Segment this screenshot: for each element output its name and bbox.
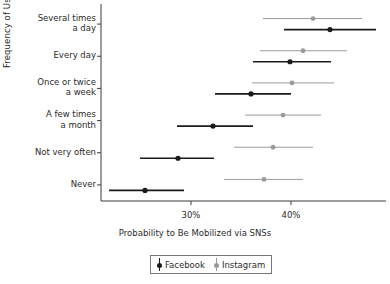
x-axis-tick-label: 40% [282, 210, 301, 220]
errorbar-point-instagram-4 [234, 145, 313, 150]
chart-figure: Frequency of Use Several timesa dayEvery… [0, 0, 390, 284]
legend-label-instagram: Instagram [222, 260, 265, 270]
chart-plot-area [0, 0, 390, 284]
errorbar-point-instagram-2 [252, 81, 334, 86]
legend-entry-instagram[interactable]: Instagram [214, 258, 265, 271]
errorbar-marker-icon [157, 258, 162, 271]
point-estimate-marker [327, 27, 332, 32]
errorbar-marker-icon [214, 258, 219, 271]
point-estimate-marker [175, 156, 180, 161]
errorbar-point-facebook-2 [215, 91, 291, 96]
x-axis-tick-label: 30% [182, 210, 201, 220]
point-estimate-marker [210, 123, 215, 128]
point-estimate-marker [287, 59, 292, 64]
errorbar-point-instagram-5 [224, 177, 303, 182]
errorbar-point-facebook-4 [140, 156, 214, 161]
point-estimate-marker [301, 48, 306, 53]
point-estimate-marker [290, 81, 295, 86]
errorbar-point-instagram-3 [245, 113, 321, 118]
errorbar-point-facebook-0 [284, 27, 376, 32]
errorbar-point-instagram-1 [260, 48, 347, 53]
point-estimate-marker [311, 16, 316, 21]
point-estimate-marker [281, 113, 286, 118]
legend-entry-facebook[interactable]: Facebook [157, 258, 205, 271]
point-estimate-marker [262, 177, 267, 182]
chart-legend: Facebook Instagram [150, 255, 272, 274]
point-estimate-marker [271, 145, 276, 150]
legend-label-facebook: Facebook [165, 260, 205, 270]
errorbar-point-instagram-0 [263, 16, 362, 21]
point-estimate-marker [248, 91, 253, 96]
x-axis-label: Probability to Be Mobilized via SNSs [0, 228, 390, 238]
errorbar-point-facebook-5 [109, 188, 184, 193]
errorbar-point-facebook-3 [177, 123, 253, 128]
point-estimate-marker [142, 188, 147, 193]
errorbar-point-facebook-1 [253, 59, 331, 64]
